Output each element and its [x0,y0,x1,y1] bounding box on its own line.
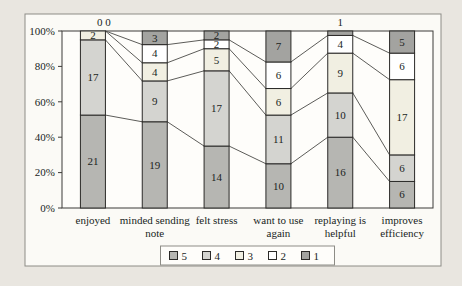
category-label: efficiency [380,227,424,239]
y-axis-tick-label: 40% [35,131,55,143]
bar-segment [328,31,353,35]
legend-swatch [236,252,244,260]
legend-label: 2 [281,250,287,262]
bar-segment-label: 4 [152,47,158,59]
bar-segment-label: 5 [399,36,405,48]
bar-segment-label: 2 [90,29,96,41]
legend-label: 5 [182,250,188,262]
bar-segment-label: 6 [399,188,405,200]
bar-segment-label: 10 [273,180,285,192]
category-label: enjoyed [76,214,111,226]
above-bar-label: 0 0 [97,16,111,28]
bar-segment-label: 11 [273,133,284,145]
legend-label: 3 [248,250,254,262]
bar-segment-label: 19 [149,159,161,171]
bar-segment-label: 5 [214,54,220,66]
y-axis-tick-label: 20% [35,166,55,178]
bar-segment-label: 21 [87,155,98,167]
legend-swatch [269,252,277,260]
legend-swatch [302,252,310,260]
bar: 1417522 [204,29,229,208]
bar-segment-label: 17 [87,71,99,83]
chart-figure: 211720 019944314175221011667161094166176… [0,0,462,286]
legend-swatch [170,252,178,260]
legend-swatch [203,252,211,260]
category-label: minded sending [120,214,190,226]
bar-segment-label: 4 [152,66,158,78]
bar-segment-label: 6 [399,162,405,174]
plot-area [62,31,433,208]
bar-segment-label: 7 [276,40,282,52]
bar: 661765 [390,31,415,208]
bar-segment-label: 10 [335,109,347,121]
bar: 199443 [142,31,167,208]
bar: 1011667 [266,31,291,208]
category-label: want to use [253,214,303,226]
bar-segment-label: 9 [338,67,344,79]
above-bar-label: 1 [338,16,344,28]
bar-segment-label: 16 [335,166,347,178]
category-label: improves [382,214,423,226]
bar-segment-label: 17 [397,111,409,123]
bar-segment-label: 6 [276,96,282,108]
y-axis-tick-label: 0% [40,202,55,214]
category-label: note [145,227,164,239]
category-label: helpful [325,227,356,239]
bar-segment-label: 3 [152,32,158,44]
y-axis-tick-label: 80% [35,60,55,72]
category-label: replaying is [314,214,366,226]
legend-label: 1 [314,250,320,262]
stacked-bar-chart: 211720 019944314175221011667161094166176… [0,0,462,286]
bar-segment-label: 6 [276,69,282,81]
bar-segment-label: 6 [399,60,405,72]
category-label: again [267,227,291,239]
legend-label: 4 [215,250,221,262]
bar-segment-label: 9 [152,95,158,107]
y-axis-tick-label: 100% [29,25,55,37]
bar-segment-label: 14 [211,171,223,183]
bar: 1610941 [328,16,353,208]
bar-segment-label: 4 [338,38,344,50]
y-axis-tick-label: 60% [35,96,55,108]
legend: 54321 [161,246,335,265]
bar-segment-label: 2 [214,29,220,41]
category-label: felt stress [196,214,238,226]
bar-segment-label: 17 [211,102,223,114]
